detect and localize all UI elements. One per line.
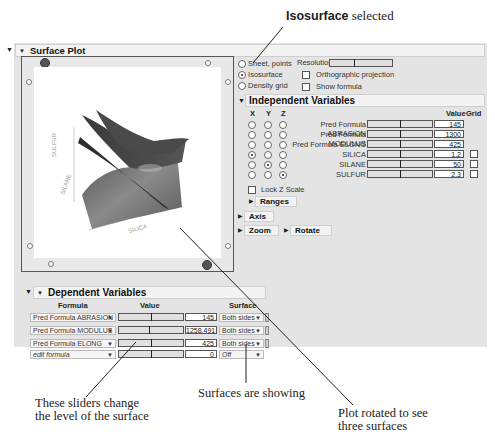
formula-dropdown[interactable]: Pred Formula ABRASION▼ bbox=[30, 313, 116, 322]
radio-x[interactable] bbox=[248, 171, 256, 179]
radio-y[interactable] bbox=[264, 131, 272, 139]
resize-handle-icon[interactable] bbox=[27, 243, 33, 249]
radio-y[interactable] bbox=[264, 171, 272, 179]
radio-z[interactable] bbox=[279, 171, 287, 179]
zoom-outline[interactable]: Zoom bbox=[244, 225, 279, 236]
show-formula-option[interactable]: Show formula bbox=[302, 82, 362, 91]
disclosure-triangle-icon[interactable]: ▶ bbox=[249, 197, 254, 204]
level-value-input[interactable]: 0 bbox=[185, 350, 217, 358]
radio-density-grid[interactable] bbox=[238, 82, 246, 90]
grid-checkbox[interactable] bbox=[470, 170, 478, 178]
radio-y[interactable] bbox=[264, 121, 272, 129]
radio-z[interactable] bbox=[279, 131, 287, 139]
radio-x[interactable] bbox=[248, 151, 256, 159]
variable-slider[interactable] bbox=[367, 150, 433, 158]
lock-z-scale-option[interactable]: Lock Z Scale bbox=[248, 185, 304, 194]
mode-option-sheet-points[interactable]: Sheet, points bbox=[238, 59, 292, 68]
variable-slider[interactable] bbox=[367, 160, 433, 168]
axis-outline[interactable]: Axis bbox=[244, 211, 274, 222]
variable-value-input[interactable]: 50 bbox=[434, 160, 464, 168]
formula-dropdown[interactable]: Pred Formula MODULUS▼ bbox=[30, 326, 116, 335]
variable-slider[interactable] bbox=[367, 140, 433, 148]
mode-option-isosurface[interactable]: Isosurface bbox=[238, 70, 283, 79]
color-swatch[interactable] bbox=[265, 339, 269, 348]
surface-dropdown[interactable]: Both sides▼ bbox=[219, 313, 264, 322]
dependent-variables-header[interactable]: ▼ Dependent Variables bbox=[33, 286, 266, 299]
surface-dropdown[interactable]: Both sides▼ bbox=[219, 326, 264, 335]
slider-thumb[interactable] bbox=[400, 140, 401, 148]
grid-checkbox[interactable] bbox=[470, 160, 478, 168]
surface-dropdown[interactable]: Off▼ bbox=[219, 350, 264, 359]
disclosure-triangle-icon[interactable]: ▼ bbox=[6, 46, 13, 53]
color-swatch[interactable] bbox=[265, 326, 269, 335]
level-slider[interactable] bbox=[118, 350, 184, 358]
radio-x[interactable] bbox=[248, 131, 256, 139]
resize-handle-icon[interactable] bbox=[225, 243, 231, 249]
ranges-outline[interactable]: Ranges bbox=[255, 196, 297, 207]
slider-thumb[interactable] bbox=[151, 313, 152, 321]
variable-slider[interactable] bbox=[367, 170, 433, 178]
radio-z[interactable] bbox=[279, 151, 287, 159]
level-value-input[interactable]: 145 bbox=[185, 313, 217, 321]
independent-variables-header[interactable]: Independent Variables bbox=[245, 94, 485, 107]
slider-thumb[interactable] bbox=[400, 150, 401, 158]
radio-y[interactable] bbox=[264, 141, 272, 149]
plot-canvas[interactable]: SULFUR SILANE SILICA bbox=[34, 67, 221, 258]
radio-z[interactable] bbox=[279, 141, 287, 149]
level-slider[interactable] bbox=[118, 326, 184, 334]
dropdown-value: Pred Formula MODULUS bbox=[33, 327, 112, 334]
disclosure-triangle-icon[interactable]: ▶ bbox=[238, 212, 243, 219]
disclosure-triangle-icon[interactable]: ▶ bbox=[284, 226, 289, 233]
radio-x[interactable] bbox=[248, 141, 256, 149]
slider-thumb[interactable] bbox=[400, 170, 401, 178]
variable-slider[interactable] bbox=[367, 120, 433, 128]
rotate-handle-icon[interactable] bbox=[202, 260, 212, 270]
variable-value-input[interactable]: 1.2 bbox=[434, 150, 464, 158]
level-value-input[interactable]: 1258.491 bbox=[185, 326, 217, 334]
radio-z[interactable] bbox=[279, 121, 287, 129]
show-formula-checkbox[interactable] bbox=[302, 83, 310, 91]
grid-checkbox[interactable] bbox=[470, 150, 478, 158]
resize-handle-icon[interactable] bbox=[26, 79, 32, 85]
radio-z[interactable] bbox=[279, 161, 287, 169]
slider-thumb[interactable] bbox=[151, 350, 152, 358]
level-value-input[interactable]: 425 bbox=[185, 339, 217, 347]
radio-x[interactable] bbox=[248, 121, 256, 129]
plot-frame[interactable]: SULFUR SILANE SILICA bbox=[21, 56, 234, 272]
color-swatch[interactable] bbox=[265, 313, 269, 322]
slider-thumb[interactable] bbox=[400, 160, 401, 168]
orthographic-option[interactable]: Orthographic projection bbox=[302, 70, 394, 79]
lock-z-scale-checkbox[interactable] bbox=[248, 186, 256, 194]
formula-dropdown[interactable]: edit formula▼ bbox=[30, 350, 116, 359]
surface-dropdown[interactable]: Both sides▼ bbox=[219, 339, 264, 348]
disclosure-triangle-icon[interactable]: ▼ bbox=[25, 288, 32, 295]
variable-value-input[interactable]: 1300 bbox=[434, 130, 464, 138]
disclosure-triangle-icon[interactable]: ▼ bbox=[238, 97, 245, 104]
radio-isosurface[interactable] bbox=[238, 71, 246, 79]
disclosure-triangle-icon[interactable]: ▶ bbox=[238, 226, 243, 233]
resolution-slider[interactable] bbox=[329, 59, 393, 67]
slider-thumb[interactable] bbox=[149, 326, 150, 334]
radio-y[interactable] bbox=[264, 151, 272, 159]
resize-handle-icon[interactable] bbox=[225, 79, 231, 85]
variable-value-input[interactable]: 425 bbox=[434, 140, 464, 148]
radio-x[interactable] bbox=[248, 161, 256, 169]
resize-handle-icon[interactable] bbox=[48, 261, 54, 267]
orthographic-checkbox[interactable] bbox=[302, 71, 310, 79]
variable-value-input[interactable]: 145 bbox=[434, 120, 464, 128]
slider-thumb[interactable] bbox=[400, 120, 401, 128]
variable-slider[interactable] bbox=[367, 130, 433, 138]
menu-triangle-icon[interactable]: ▼ bbox=[37, 288, 43, 299]
radio-sheet-points[interactable] bbox=[238, 60, 246, 68]
rotate-outline[interactable]: Rotate bbox=[290, 225, 332, 236]
formula-dropdown[interactable]: Pred Formula ELONG▼ bbox=[30, 339, 116, 348]
resize-handle-icon[interactable] bbox=[205, 60, 211, 66]
slider-thumb[interactable] bbox=[151, 339, 152, 347]
slider-thumb[interactable] bbox=[400, 130, 401, 138]
slider-thumb[interactable] bbox=[354, 59, 355, 67]
variable-value-input[interactable]: 2.3 bbox=[434, 170, 464, 178]
mode-option-density-grid[interactable]: Density grid bbox=[238, 81, 288, 90]
level-slider[interactable] bbox=[118, 339, 184, 347]
level-slider[interactable] bbox=[118, 313, 184, 321]
radio-y[interactable] bbox=[264, 161, 272, 169]
